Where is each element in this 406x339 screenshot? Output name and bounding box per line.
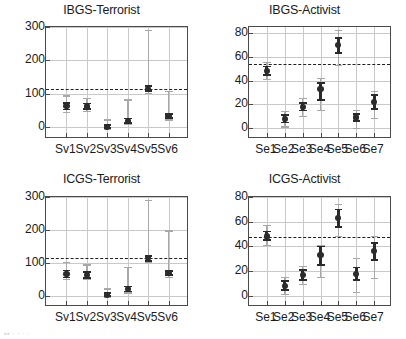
y-axis-label: 100	[0, 255, 48, 269]
inner-cap-lower	[371, 108, 379, 110]
outer-cap-lower	[353, 292, 361, 293]
mean-marker	[264, 233, 270, 239]
reference-line	[46, 258, 187, 259]
outer-cap-upper	[263, 62, 271, 63]
x-axis-label: Sv4	[116, 310, 137, 324]
x-axis-tick	[285, 301, 286, 305]
inner-cap-lower	[335, 52, 343, 54]
outer-cap-lower	[353, 128, 361, 129]
mean-marker	[317, 86, 323, 92]
outer-error-bar	[148, 30, 149, 93]
gridline-horizontal	[249, 222, 390, 223]
mean-marker	[84, 103, 90, 109]
outer-cap-lower	[281, 294, 289, 295]
gridline-vertical	[66, 197, 67, 305]
x-axis-tick	[128, 301, 129, 305]
x-axis-tick	[321, 301, 322, 305]
outer-cap-upper	[371, 91, 379, 92]
outer-cap-upper	[104, 119, 112, 120]
inner-cap-lower	[263, 239, 271, 241]
x-axis-label: Sv4	[116, 142, 137, 156]
inner-cap-upper	[371, 242, 379, 244]
panel-icgs-terrorist: ICGS-Terrorist 0100200300Sv1Sv2Sv3Sv4Sv5…	[0, 169, 203, 339]
x-axis-tick	[267, 133, 268, 137]
inner-cap-lower	[335, 226, 343, 228]
mean-marker	[125, 286, 131, 292]
outer-cap-upper	[124, 99, 132, 100]
x-axis-label: Sv1	[55, 142, 76, 156]
x-axis-label: Se7	[362, 310, 383, 324]
mean-marker	[353, 271, 359, 277]
x-axis-label: Sv3	[96, 142, 117, 156]
x-axis-tick	[303, 133, 304, 137]
mean-marker	[300, 104, 306, 110]
inner-cap-upper	[353, 267, 361, 269]
reference-line	[249, 237, 390, 238]
outer-cap-upper	[83, 264, 91, 265]
outer-cap-upper	[281, 277, 289, 278]
x-axis-tick	[66, 301, 67, 305]
x-axis-tick	[356, 301, 357, 305]
panel-title: ICGS-Activist	[203, 172, 406, 186]
outer-cap-lower	[83, 279, 91, 280]
panel-title: ICGS-Terrorist	[0, 172, 203, 186]
mean-marker	[353, 114, 359, 120]
y-axis-label: 200	[0, 222, 48, 236]
gridline-vertical	[66, 27, 67, 137]
outer-cap-lower	[371, 278, 379, 279]
outer-cap-upper	[83, 98, 91, 99]
plot-area	[45, 26, 188, 138]
inner-cap-upper	[317, 246, 325, 248]
mean-marker	[282, 283, 288, 289]
x-axis-tick	[169, 133, 170, 137]
gridline-horizontal	[249, 57, 390, 58]
inner-cap-upper	[263, 66, 271, 68]
gridline-horizontal	[249, 296, 390, 297]
gridline-vertical	[87, 27, 88, 137]
outer-error-bar	[148, 201, 149, 263]
inner-cap-upper	[371, 94, 379, 96]
panel-ibgs-activist: IBGS-Activist 020406080Se1Se2Se3Se4Se5Se…	[203, 0, 406, 169]
outer-cap-upper	[335, 30, 343, 31]
mean-marker	[282, 116, 288, 122]
outer-cap-lower	[299, 116, 307, 117]
mean-marker	[371, 248, 377, 254]
x-axis-tick	[356, 133, 357, 137]
outer-cap-upper	[145, 30, 153, 31]
outer-cap-upper	[335, 204, 343, 205]
outer-cap-upper	[124, 267, 132, 268]
panel-ibgs-terrorist: IBGS-Terrorist 0100200300Sv1Sv2Sv3Sv4Sv5…	[0, 0, 203, 169]
outer-cap-upper	[353, 110, 361, 111]
inner-cap-lower	[317, 99, 325, 101]
outer-cap-lower	[317, 277, 325, 278]
y-axis-label: 100	[0, 86, 48, 100]
outer-cap-lower	[63, 112, 71, 113]
y-axis-label: 40	[203, 73, 251, 87]
gridline-vertical	[87, 197, 88, 305]
x-axis-label: Sv5	[137, 310, 158, 324]
gridline-horizontal	[249, 33, 390, 34]
outer-cap-upper	[104, 288, 112, 289]
y-axis-label: 300	[0, 19, 48, 33]
outer-cap-lower	[335, 236, 343, 237]
x-axis-tick	[338, 301, 339, 305]
x-axis-tick	[267, 301, 268, 305]
plot-area	[45, 196, 188, 306]
x-axis-label: Sv1	[55, 310, 76, 324]
x-axis-label: Sv2	[76, 310, 97, 324]
y-axis-label: 60	[203, 49, 251, 63]
mean-marker	[84, 272, 90, 278]
mean-marker	[165, 113, 171, 119]
outer-cap-lower	[299, 284, 307, 285]
mean-marker	[335, 215, 341, 221]
gridline-horizontal	[249, 128, 390, 129]
x-axis-label: Sv5	[137, 142, 158, 156]
x-axis-tick	[148, 301, 149, 305]
gridline-vertical	[374, 27, 375, 137]
inner-cap-lower	[353, 279, 361, 281]
cropped-caption-artifact: ▪▪ · · · ·	[4, 330, 194, 338]
mean-marker	[335, 42, 341, 48]
plot-area	[248, 196, 391, 306]
y-axis-label: 0	[203, 288, 251, 302]
x-axis-label: Sv6	[157, 310, 178, 324]
